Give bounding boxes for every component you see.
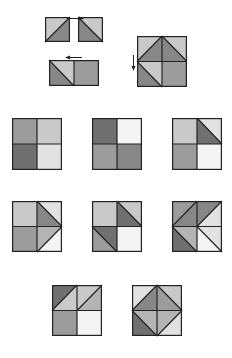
row4-square2 — [132, 285, 182, 336]
arrow-down-icon — [131, 55, 136, 71]
row3-square2 — [92, 201, 142, 252]
row3-square1 — [12, 201, 62, 252]
piece-ab-joined — [49, 60, 99, 86]
tile-region — [117, 118, 142, 144]
tile-region — [12, 118, 37, 144]
tile-region — [77, 311, 102, 337]
piece-big — [137, 36, 187, 87]
row2-square2 — [92, 118, 142, 170]
tile-region — [172, 144, 197, 170]
tile-region — [52, 311, 77, 337]
row2-square1 — [12, 118, 62, 170]
tile-region — [197, 144, 222, 170]
tile-region — [117, 144, 142, 170]
arrow-left-icon — [65, 55, 82, 60]
tile-region — [12, 201, 37, 227]
tile-region — [172, 118, 197, 144]
row2-square3 — [172, 118, 222, 170]
tile-region — [92, 201, 117, 227]
arrow-right-icon — [67, 16, 84, 21]
row4-square1 — [52, 285, 102, 336]
tile-region — [92, 118, 117, 144]
tile-region — [37, 118, 62, 144]
tile-region — [74, 60, 99, 86]
row3-square3 — [172, 201, 222, 252]
tile-region — [12, 144, 37, 170]
tile-region — [117, 227, 142, 253]
tile-region — [92, 144, 117, 170]
tile-region — [162, 62, 187, 88]
tile-region — [37, 144, 62, 170]
tile-region — [12, 227, 37, 253]
